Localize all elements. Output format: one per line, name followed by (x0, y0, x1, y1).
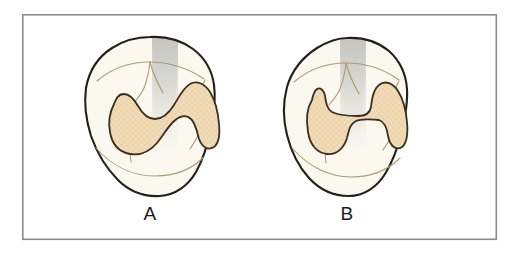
panel-label-a: A (130, 203, 170, 225)
panel-label-b: B (327, 203, 367, 225)
figure-canvas: A B (0, 0, 512, 255)
occlusal-preparation-figure (0, 0, 512, 255)
